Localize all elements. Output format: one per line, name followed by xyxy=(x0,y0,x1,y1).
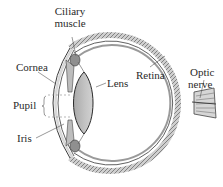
pupil-opening xyxy=(48,95,72,117)
eye-cross-section-illustration xyxy=(0,0,223,187)
label-iris: Iris xyxy=(17,133,32,144)
label-cornea: Cornea xyxy=(16,62,48,73)
label-ciliary-muscle-line2: muscle xyxy=(48,18,92,29)
optic-nerve xyxy=(192,88,216,118)
label-retina: Retina xyxy=(136,70,165,81)
iris xyxy=(66,60,74,146)
label-ciliary-muscle-line1: Ciliary xyxy=(50,6,90,17)
label-pupil: Pupil xyxy=(13,100,36,111)
label-optic-nerve-line2: nerve xyxy=(188,79,212,90)
label-lens: Lens xyxy=(107,78,128,89)
label-optic-nerve-line1: Optic xyxy=(190,67,214,78)
eye-diagram: Ciliary muscle Cornea Retina Optic nerve… xyxy=(0,0,223,187)
lens xyxy=(74,72,94,134)
